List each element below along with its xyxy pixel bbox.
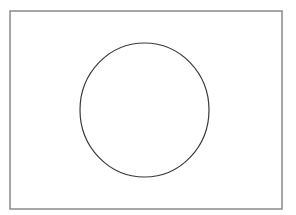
diagram-svg xyxy=(0,0,296,215)
frame-rectangle xyxy=(10,11,282,209)
diagram-canvas xyxy=(0,0,296,215)
